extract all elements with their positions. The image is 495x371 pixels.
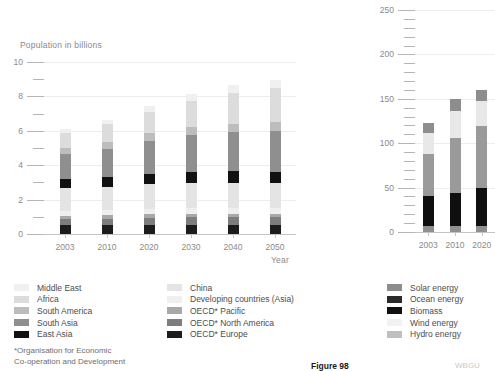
energy-legend-item[interactable]: Wind energy [387, 317, 463, 329]
energy-legend-item[interactable]: Ocean energy [387, 294, 463, 306]
y-major-tick [398, 232, 415, 233]
figure-credit: WBGU [455, 361, 480, 370]
bar-segment [228, 85, 239, 93]
legend-label: OECD* Pacific [190, 306, 245, 316]
bar-segment [144, 209, 155, 215]
bar-segment [450, 138, 461, 193]
population-legend-item[interactable]: OECD* Europe [167, 328, 294, 340]
population-legend-item[interactable]: Africa [14, 294, 92, 306]
y-minor-tick [404, 214, 415, 215]
bar-segment [186, 135, 197, 171]
x-axis-label: 2030 [182, 242, 201, 252]
bar-segment [144, 112, 155, 134]
population-legend-item[interactable]: East Asia [14, 328, 92, 340]
population-legend-item[interactable]: Middle East [14, 282, 92, 294]
x-axis-tick [428, 232, 429, 236]
bar-segment [228, 217, 239, 225]
population-legend-column-1: Middle EastAfricaSouth AmericaSouth Asia… [14, 282, 92, 340]
legend-label: Africa [37, 294, 59, 304]
bar-segment [228, 124, 239, 132]
population-legend-item[interactable]: Developing countries (Asia) [167, 294, 294, 306]
bar-segment [102, 210, 113, 215]
bar-segment [423, 154, 434, 197]
y-major-tick [27, 62, 44, 63]
population-legend-item[interactable]: South America [14, 305, 92, 317]
x-axis-label: 2050 [266, 242, 285, 252]
bar-segment [270, 80, 281, 88]
y-minor-tick [33, 79, 44, 80]
y-minor-tick [404, 63, 415, 64]
bar-segment [60, 179, 71, 188]
bar-segment [423, 196, 434, 225]
legend-swatch-icon [387, 307, 402, 314]
legend-label: Hydro energy [410, 329, 461, 339]
y-minor-tick [33, 182, 44, 183]
stacked-bar [450, 10, 461, 232]
legend-swatch-icon [167, 331, 182, 338]
population-legend-item[interactable]: OECD* Pacific [167, 305, 294, 317]
legend-swatch-icon [387, 331, 402, 338]
bar-segment [144, 141, 155, 174]
population-plot-area: 0246810200320102020203020402050 [44, 62, 296, 234]
legend-swatch-icon [387, 296, 402, 303]
bar-segment [228, 208, 239, 214]
bar-segment [423, 133, 434, 153]
x-axis-tick [191, 234, 192, 238]
bar-segment [186, 172, 197, 183]
legend-swatch-icon [167, 296, 182, 303]
bar-segment [60, 219, 71, 225]
bar-segment [144, 174, 155, 184]
population-legend-column-2: ChinaDeveloping countries (Asia)OECD* Pa… [167, 282, 294, 340]
y-minor-tick [404, 72, 415, 73]
y-minor-tick [33, 148, 44, 149]
gridline [44, 62, 296, 63]
bar-segment [228, 214, 239, 217]
legend-label: Developing countries (Asia) [190, 294, 294, 304]
x-axis-tick [65, 234, 66, 238]
y-axis-label: 250 [372, 5, 394, 15]
stacked-bar [270, 62, 281, 234]
y-minor-tick [404, 90, 415, 91]
y-axis-label: 10 [1, 57, 23, 67]
bar-segment [186, 101, 197, 127]
energy-plot-area: 050100150200250200320102020 [415, 10, 495, 232]
y-major-tick [27, 165, 44, 166]
x-axis-tick [107, 234, 108, 238]
y-major-tick [398, 143, 415, 144]
stacked-bar [476, 10, 487, 232]
y-minor-tick [404, 134, 415, 135]
y-minor-tick [404, 152, 415, 153]
y-minor-tick [404, 81, 415, 82]
y-minor-tick [404, 170, 415, 171]
energy-legend-item[interactable]: Solar energy [387, 282, 463, 294]
bar-segment [102, 149, 113, 177]
energy-legend-item[interactable]: Biomass [387, 305, 463, 317]
bar-segment [228, 171, 239, 183]
gridline [44, 131, 296, 132]
oecd-footnote: *Organisation for Economic Co-operation … [14, 345, 125, 367]
energy-legend-item[interactable]: Hydro energy [387, 328, 463, 340]
bar-segment [270, 122, 281, 131]
oecd-footnote-line-1: *Organisation for Economic [14, 345, 125, 356]
bar-segment [270, 214, 281, 217]
bar-segment [102, 177, 113, 187]
x-axis-tick [149, 234, 150, 238]
energy-legend: Solar energyOcean energyBiomassWind ener… [387, 282, 463, 340]
y-major-tick [27, 96, 44, 97]
bar-segment [60, 133, 71, 148]
bar-segment [144, 184, 155, 209]
population-legend-item[interactable]: OECD* North America [167, 317, 294, 329]
stacked-bar [102, 62, 113, 234]
x-axis-tick [233, 234, 234, 238]
bar-segment [60, 188, 71, 211]
legend-label: Biomass [410, 306, 443, 316]
legend-label: Solar energy [410, 283, 458, 293]
population-xaxis-title: Year [271, 255, 289, 265]
population-legend-item[interactable]: South Asia [14, 317, 92, 329]
figure-label: Figure 98 [311, 361, 349, 371]
y-minor-tick [404, 223, 415, 224]
population-legend-item[interactable]: China [167, 282, 294, 294]
bar-segment [186, 225, 197, 234]
x-axis-tick [275, 234, 276, 238]
y-axis-label: 8 [1, 91, 23, 101]
